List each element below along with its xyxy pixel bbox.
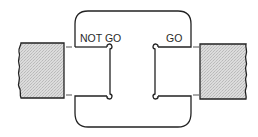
extension-lines [66,47,199,95]
right-workpiece [200,44,247,99]
bottom-jaw [75,96,191,127]
gauge-frame [75,11,191,127]
go-jaw [153,44,158,99]
left-workpiece [18,43,64,98]
snap-gauge-diagram: NOT GO GO [0,0,258,137]
not-go-label: NOT GO [80,32,121,44]
not-go-jaw [107,44,112,99]
go-label: GO [166,32,182,44]
